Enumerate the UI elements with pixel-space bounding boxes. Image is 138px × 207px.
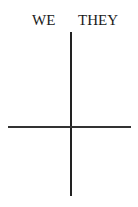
we-label: WE [32,13,55,28]
horizontal-axis-line [8,126,131,128]
they-label: THEY [78,13,118,28]
vertical-axis-line [70,32,72,196]
